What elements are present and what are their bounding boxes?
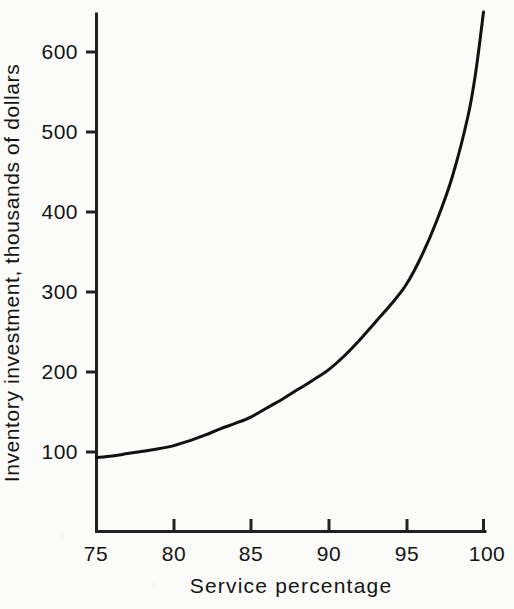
x-tick-label-100: 100 (469, 542, 506, 566)
y-axis-title: Inventory investment, thousands of dolla… (0, 38, 24, 508)
x-tick-label-75: 75 (84, 542, 108, 566)
x-tick-label-95: 95 (395, 542, 419, 566)
x-tick-label-90: 90 (317, 542, 341, 566)
x-axis-ticks (174, 519, 484, 531)
chart-figure: 600 500 400 300 200 100 75 80 85 90 95 1… (0, 0, 514, 609)
x-tick-label-80: 80 (162, 542, 186, 566)
x-axis-title: Service percentage (190, 574, 393, 598)
plot-area (0, 0, 514, 609)
data-curve-inventory-investment (97, 12, 484, 458)
x-tick-label-85: 85 (239, 542, 263, 566)
